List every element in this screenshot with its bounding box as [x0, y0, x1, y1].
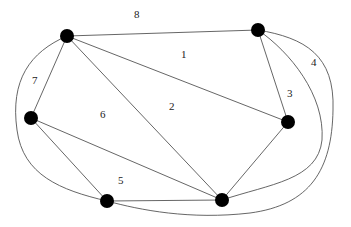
face-label-5: 5	[118, 174, 124, 186]
node-f	[100, 194, 114, 208]
node-a	[60, 29, 74, 43]
edge-d-f	[31, 118, 107, 201]
edge-d-e	[31, 118, 222, 200]
edge-a-b	[67, 30, 258, 36]
node-c	[281, 115, 295, 129]
face-label-6: 6	[100, 108, 106, 120]
node-e	[215, 193, 229, 207]
face-label-4: 4	[311, 56, 317, 68]
edge-f-e	[107, 200, 222, 201]
face-label-1: 1	[181, 48, 187, 60]
edge-b-e-curve	[222, 30, 322, 200]
edge-b-f-curve	[107, 30, 333, 215]
edge-c-e	[222, 122, 288, 200]
face-label-3: 3	[287, 87, 293, 99]
node-b	[251, 23, 265, 37]
edge-a-e	[67, 36, 222, 200]
node-d	[24, 111, 38, 125]
face-label-2: 2	[169, 100, 175, 112]
face-label-7: 7	[32, 74, 38, 86]
edge-b-c	[258, 30, 288, 122]
graph-diagram: 8 1 2 3 4 6 7 5	[0, 0, 351, 227]
face-label-8: 8	[134, 8, 140, 20]
